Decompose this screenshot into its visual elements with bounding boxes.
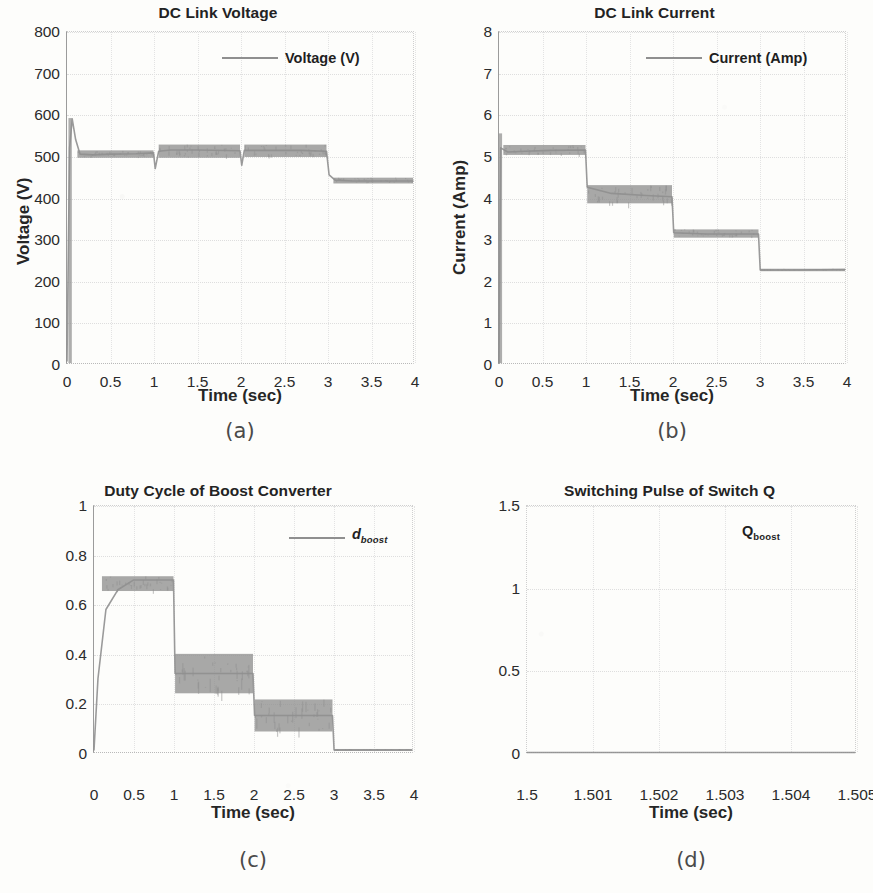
legend-line-icon-a [222, 57, 278, 59]
y-tick-c-2: 0.4 [65, 646, 94, 664]
x-tick-c-1: 0.5 [123, 786, 145, 804]
x-axis-label-c: Time (sec) [93, 803, 413, 823]
x-tick-c-7: 3.5 [363, 786, 385, 804]
x-tick-d-3: 1.503 [706, 786, 745, 804]
plot-area-b: 0 1 2 3 4 5 6 7 8 0 0.5 1 1.5 2 2.5 3 3.… [498, 31, 846, 364]
y-tick-b-4: 4 [483, 190, 499, 208]
y-tick-a-2: 200 [34, 273, 67, 291]
legend-label-c: dboost [352, 526, 388, 545]
y-tick-d-3: 1.5 [498, 497, 527, 515]
subfigure-caption-c: (c) [93, 848, 413, 872]
legend-c: dboost [289, 526, 388, 545]
legend-d: Qboost [742, 523, 780, 542]
y-axis-label-a: Voltage (V) [14, 177, 34, 265]
x-tick-c-0: 0 [90, 786, 99, 804]
y-tick-b-8: 8 [483, 23, 499, 41]
subfigure-caption-d: (d) [526, 848, 856, 872]
y-tick-a-0: 0 [51, 356, 67, 374]
x-tick-c-8: 4 [410, 786, 419, 804]
y-tick-c-3: 0.6 [65, 596, 94, 614]
y-tick-a-4: 400 [34, 190, 67, 208]
y-tick-b-2: 2 [483, 273, 499, 291]
x-tick-d-4: 1.504 [772, 786, 811, 804]
x-axis-label-d: Time (sec) [526, 803, 856, 823]
data-trace-a [67, 32, 413, 363]
x-tick-d-1: 1.501 [574, 786, 613, 804]
x-tick-d-5: 1.505 [838, 786, 873, 804]
y-tick-b-3: 3 [483, 231, 499, 249]
x-tick-c-6: 3 [330, 786, 339, 804]
y-axis-label-b: Current (Amp) [450, 160, 470, 275]
panel-d: Switching Pulse of Switch Q Amplitude 0 … [436, 450, 873, 893]
x-tick-d-0: 1.5 [516, 786, 538, 804]
chart-title-b: DC Link Current [436, 4, 873, 22]
legend-line-icon-c [289, 537, 345, 539]
legend-a: Voltage (V) [222, 50, 360, 66]
data-trace-d [527, 506, 855, 752]
data-trace-b [499, 32, 845, 363]
plot-area-a: 0 100 200 300 400 500 600 700 800 0 0.5 … [66, 31, 414, 364]
x-tick-d-2: 1.502 [640, 786, 679, 804]
legend-line-icon-b [646, 57, 702, 59]
y-tick-a-6: 600 [34, 106, 67, 124]
legend-label-d: Qboost [742, 523, 780, 542]
chart-title-a: DC Link Voltage [0, 4, 436, 22]
y-tick-b-0: 0 [483, 356, 499, 374]
y-tick-a-8: 800 [34, 23, 67, 41]
x-tick-c-5: 2.5 [283, 786, 305, 804]
panel-b: DC Link Current Current (Amp) 0 [436, 0, 873, 450]
panel-a: DC Link Voltage Voltage (V) 0 [0, 0, 436, 450]
y-tick-b-7: 7 [483, 65, 499, 83]
y-tick-b-1: 1 [483, 314, 499, 332]
x-tick-c-2: 1 [170, 786, 179, 804]
legend-label-a: Voltage (V) [285, 50, 360, 66]
subfigure-caption-b: (b) [498, 419, 846, 443]
y-tick-b-5: 5 [483, 148, 499, 166]
plot-area-d: 0 0.5 1 1.5 1.5 1.501 1.502 1.503 1.504 … [526, 505, 856, 753]
y-tick-c-0: 0 [78, 745, 94, 763]
y-tick-d-1: 0.5 [498, 662, 527, 680]
chart-title-c: Duty Cycle of Boost Converter [0, 482, 436, 500]
y-tick-c-5: 1 [78, 497, 94, 515]
subfigure-caption-a: (a) [66, 419, 414, 443]
x-tick-c-3: 1.5 [203, 786, 225, 804]
panel-c: Duty Cycle of Boost Converter Amplitude … [0, 450, 436, 893]
y-tick-a-3: 300 [34, 231, 67, 249]
y-tick-c-1: 0.2 [65, 695, 94, 713]
x-axis-label-b: Time (sec) [498, 386, 846, 406]
y-tick-a-1: 100 [34, 314, 67, 332]
y-tick-a-7: 700 [34, 65, 67, 83]
x-tick-c-4: 2 [250, 786, 259, 804]
y-tick-c-4: 0.8 [65, 547, 94, 565]
x-axis-label-a: Time (sec) [66, 386, 414, 406]
chart-title-d: Switching Pulse of Switch Q [466, 482, 873, 500]
y-tick-d-0: 0 [511, 745, 527, 763]
y-tick-a-5: 500 [34, 148, 67, 166]
y-tick-b-6: 6 [483, 106, 499, 124]
figure-grid: DC Link Voltage Voltage (V) 0 [0, 0, 873, 893]
legend-b: Current (Amp) [646, 50, 807, 66]
y-tick-d-2: 1 [511, 580, 527, 598]
legend-label-b: Current (Amp) [709, 50, 807, 66]
